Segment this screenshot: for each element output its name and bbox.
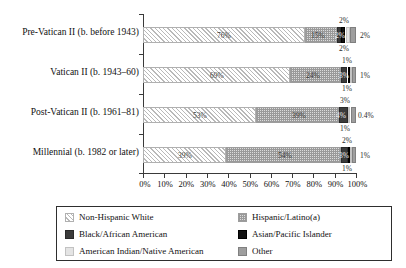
bar-segment-other bbox=[351, 107, 357, 123]
table-row: 39% 54% 3% 2% 1% 1% bbox=[143, 147, 356, 163]
legend-label: Black/African American bbox=[79, 229, 167, 240]
bar-value-label: 53% bbox=[193, 111, 207, 120]
x-tick bbox=[271, 174, 272, 178]
legend-item-hispanic-latino: Hispanic/Latino(a) bbox=[238, 212, 320, 223]
bar-value-label: 3% bbox=[339, 151, 349, 160]
legend-item-non-hispanic-white: Non-Hispanic White bbox=[65, 212, 154, 223]
bar-value-label-above: 2% bbox=[342, 136, 352, 145]
bar-value-label-below: 1% bbox=[340, 124, 350, 133]
bar-value-label: 4% bbox=[336, 111, 346, 120]
table-row: 53% 39% 4% 3% 1% 0.4% bbox=[143, 107, 356, 123]
table-row: 76% 15% 2% 2% 2% 2% bbox=[143, 27, 356, 43]
bar-value-label: 69% bbox=[210, 71, 224, 80]
x-axis-tick-label: 50% bbox=[243, 179, 259, 189]
x-tick bbox=[186, 174, 187, 178]
bar-value-label-above: 2% bbox=[339, 16, 349, 25]
x-axis-tick-label: 20% bbox=[179, 179, 195, 189]
bar-value-label-right: 1% bbox=[360, 151, 370, 160]
x-axis-tick-label: 0% bbox=[139, 179, 150, 189]
legend-swatch-non-hispanic-white-icon bbox=[65, 213, 74, 222]
y-tick bbox=[139, 94, 143, 95]
bar-value-label-right: 1% bbox=[360, 71, 370, 80]
x-axis-tick-label: 30% bbox=[200, 179, 216, 189]
plot-area: 76% 15% 2% 2% 2% 2% 69% 24% 3% 1% 1% 1% bbox=[143, 14, 356, 173]
table-row: 69% 24% 3% 1% 1% 1% bbox=[143, 67, 356, 83]
bar-value-label: 15% bbox=[311, 31, 325, 40]
x-axis-tick-label: 70% bbox=[285, 179, 301, 189]
y-axis-label-millennial: Millennial (b. 1982 or later) bbox=[0, 147, 139, 157]
bar-value-label: 24% bbox=[306, 71, 320, 80]
legend-label: Non-Hispanic White bbox=[79, 212, 154, 223]
y-tick bbox=[139, 134, 143, 135]
legend-item-other: Other bbox=[238, 246, 273, 257]
bar-segment-other bbox=[352, 67, 356, 83]
y-tick bbox=[139, 54, 143, 55]
legend-swatch-other-icon bbox=[238, 247, 247, 256]
x-axis-tick-label: 80% bbox=[306, 179, 322, 189]
bar-value-label-right: 2% bbox=[360, 31, 370, 40]
stacked-bar-chart: Pre-Vatican II (b. before 1943) Vatican … bbox=[0, 0, 406, 268]
x-axis-tick-label: 90% bbox=[328, 179, 344, 189]
x-axis-tick-label: 100% bbox=[348, 179, 368, 189]
x-tick bbox=[313, 174, 314, 178]
x-axis-tick-label: 60% bbox=[264, 179, 280, 189]
bar-segment-other bbox=[350, 27, 356, 43]
bar-value-label-above: 3% bbox=[340, 96, 350, 105]
x-tick bbox=[292, 174, 293, 178]
x-tick bbox=[356, 174, 357, 178]
legend-swatch-asian-pacific-islander-icon bbox=[238, 230, 247, 239]
bar-value-label-below: 1% bbox=[342, 164, 352, 173]
x-tick bbox=[250, 174, 251, 178]
bar-value-label-below: 2% bbox=[339, 44, 349, 53]
legend: Non-Hispanic White Hispanic/Latino(a) Bl… bbox=[56, 206, 392, 261]
legend-label: Asian/Pacific Islander bbox=[252, 229, 332, 240]
bar-value-label-above: 1% bbox=[342, 56, 352, 65]
y-axis-label-vatican-ii: Vatican II (b. 1943–60) bbox=[0, 67, 139, 77]
bar-value-label: 3% bbox=[339, 71, 349, 80]
bar-value-label-below: 1% bbox=[342, 84, 352, 93]
bar-value-label: 76% bbox=[217, 31, 231, 40]
legend-swatch-black-african-american-icon bbox=[65, 230, 74, 239]
y-tick bbox=[139, 14, 143, 15]
x-tick bbox=[143, 174, 144, 178]
legend-item-black-african-american: Black/African American bbox=[65, 229, 167, 240]
bar-value-label: 39% bbox=[292, 111, 306, 120]
x-tick bbox=[164, 174, 165, 178]
y-axis-label-pre-vatican-ii: Pre-Vatican II (b. before 1943) bbox=[0, 27, 139, 37]
legend-label: American Indian/Native American bbox=[79, 246, 203, 257]
x-tick bbox=[228, 174, 229, 178]
x-axis-tick-label: 10% bbox=[157, 179, 173, 189]
legend-item-asian-pacific-islander: Asian/Pacific Islander bbox=[238, 229, 332, 240]
bar-segment-other bbox=[352, 147, 356, 163]
bar-value-label: 2% bbox=[335, 31, 345, 40]
x-tick bbox=[335, 174, 336, 178]
legend-swatch-hispanic-latino-icon bbox=[238, 213, 247, 222]
bar-value-label: 54% bbox=[278, 151, 292, 160]
legend-swatch-american-indian-icon bbox=[65, 247, 74, 256]
legend-label: Other bbox=[252, 246, 273, 257]
legend-item-american-indian: American Indian/Native American bbox=[65, 246, 203, 257]
bar-value-label-right: 0.4% bbox=[358, 111, 374, 120]
x-tick bbox=[207, 174, 208, 178]
y-axis-label-post-vatican-ii: Post-Vatican II (b. 1961–81) bbox=[0, 107, 139, 117]
legend-label: Hispanic/Latino(a) bbox=[252, 212, 320, 223]
x-axis-tick-label: 40% bbox=[221, 179, 237, 189]
bar-value-label: 39% bbox=[178, 151, 192, 160]
